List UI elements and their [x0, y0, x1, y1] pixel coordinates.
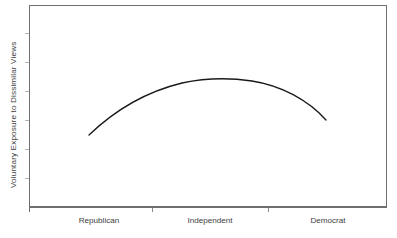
curve-voluntary-exposure: [89, 79, 326, 135]
y-axis-title: Voluntary Exposure to Dissimilar Views: [6, 0, 22, 188]
data-curve-layer: [0, 0, 397, 238]
x-tick-label-republican: Republican: [79, 215, 120, 226]
x-tick-label-independent: Independent: [187, 215, 232, 226]
x-tick-label-democrat: Democrat: [310, 215, 345, 226]
chart-figure: Voluntary Exposure to Dissimilar Views R…: [0, 0, 397, 238]
